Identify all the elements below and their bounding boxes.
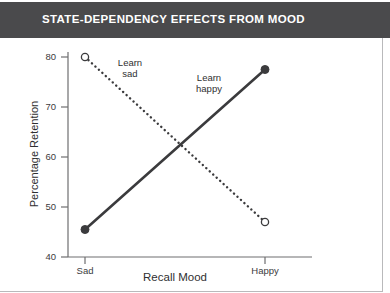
chart-card-frame	[0, 38, 383, 292]
page-title: STATE-DEPENDENCY EFFECTS FROM MOOD	[42, 13, 305, 25]
header-band: STATE-DEPENDENCY EFFECTS FROM MOOD	[0, 2, 390, 38]
chart-page: STATE-DEPENDENCY EFFECTS FROM MOOD	[0, 0, 390, 293]
